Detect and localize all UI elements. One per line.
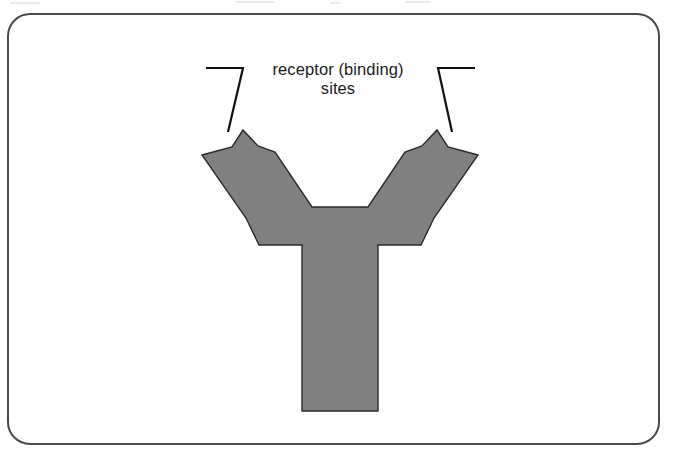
figure-root: receptor (binding) sites [0,0,677,458]
receptor-binding-sites-label: receptor (binding) sites [228,60,448,98]
